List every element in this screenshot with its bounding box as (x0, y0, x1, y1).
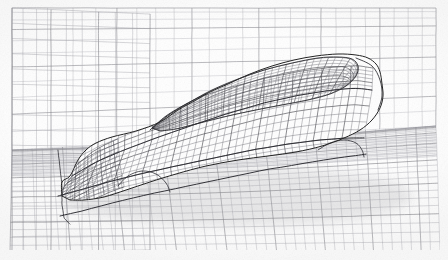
figure-root: Structured surface mesh of a vehicle in … (0, 0, 448, 260)
cfd-mesh-wireframe (0, 0, 448, 260)
